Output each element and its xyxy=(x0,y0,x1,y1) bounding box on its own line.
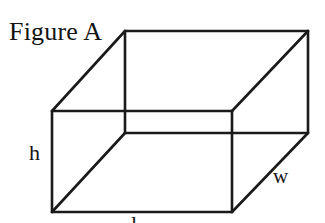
height-label: h xyxy=(29,142,40,164)
connector-top-right-edge xyxy=(232,31,308,111)
width-label: w xyxy=(273,166,288,187)
figure-container: Figure A h w l xyxy=(0,0,325,223)
length-label: l xyxy=(131,213,137,223)
connector-bottom-left-edge xyxy=(52,133,125,212)
figure-title: Figure A xyxy=(9,19,102,45)
connector-bottom-right-edge xyxy=(232,133,308,212)
